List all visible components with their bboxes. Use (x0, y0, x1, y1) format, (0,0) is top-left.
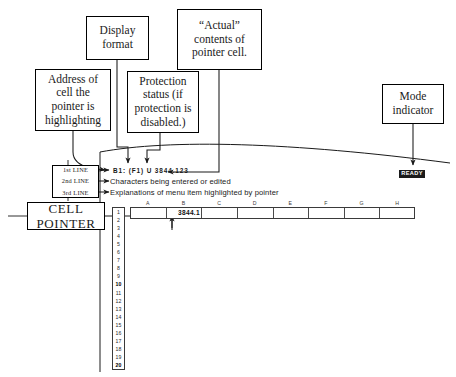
callout-actual-contents-line-1: “Actual” (190, 19, 249, 33)
callout-protection-line-3: protection is (132, 102, 193, 116)
callout-protection-line-2: status (if (132, 88, 193, 102)
row-header-cell-4[interactable]: 4 (113, 232, 124, 240)
row-header-cell-8[interactable]: 8 (113, 264, 124, 272)
callout-cell-pointer-line-2: POINTER (34, 216, 97, 231)
row-header-cell-12[interactable]: 12 (113, 297, 124, 305)
row-header-cell-16[interactable]: 16 (113, 329, 124, 337)
column-letter-G: G (344, 200, 380, 206)
row-header-cell-20[interactable]: 20 (113, 361, 124, 369)
column-header-row (130, 207, 415, 219)
row-header-cell-11[interactable]: 11 (113, 289, 124, 297)
column-letter-H: H (379, 200, 415, 206)
row-header-cell-1[interactable]: 1 (113, 208, 124, 216)
column-header-cell-G[interactable] (345, 208, 381, 218)
row-header-cell-2[interactable]: 2 (113, 216, 124, 224)
row-header-cell-15[interactable]: 15 (113, 321, 124, 329)
callout-protection-line-1: Protection (132, 75, 193, 89)
callout-mode-line-2: indicator (391, 104, 436, 118)
column-letter-B: B (166, 200, 202, 206)
mode-indicator-badge: READY (399, 170, 425, 178)
callout-display-format: Display format (86, 16, 149, 60)
control-panel-line-3: Explanations of menu item highlighted by… (110, 188, 279, 197)
row-header-cell-13[interactable]: 13 (113, 305, 124, 313)
callout-actual-contents-line-2: contents of (190, 33, 249, 47)
column-header-cell-F[interactable] (309, 208, 345, 218)
sheet-body: 3844.1 (130, 219, 415, 370)
panel-to-mode-curve (100, 144, 450, 163)
control-panel-line-1: B1: (F1) U 3844.123 (113, 167, 189, 174)
label-3rd-line: 3rd LINE (53, 190, 98, 196)
row-header-cell-18[interactable]: 18 (113, 345, 124, 353)
row-header-cell-17[interactable]: 17 (113, 337, 124, 345)
row-header-cell-9[interactable]: 9 (113, 272, 124, 280)
row-header-cell-6[interactable]: 6 (113, 248, 124, 256)
control-panel-line-2: Characters being entered or edited (110, 177, 231, 186)
row-header-cell-19[interactable]: 19 (113, 353, 124, 361)
callout-display-format-line-1: Display (98, 24, 138, 38)
callout-cell-address-line-4: highlighting (43, 114, 103, 128)
column-letter-E: E (273, 200, 309, 206)
callout-mode-indicator: Mode indicator (382, 84, 444, 124)
row-header-cell-10[interactable]: 10 (113, 280, 124, 288)
callout-actual-contents-line-3: pointer cell. (190, 46, 249, 60)
callout-mode-line-1: Mode (391, 90, 436, 104)
callout-actual-contents: “Actual” contents of pointer cell. (177, 9, 262, 70)
callout-cell-pointer-line-1: CELL (34, 201, 97, 216)
callout-cell-address: Address of cell the pointer is highlight… (35, 69, 111, 131)
callout-protection-status: Protection status (if protection is disa… (127, 71, 199, 133)
row-header-cell-14[interactable]: 14 (113, 313, 124, 321)
row-header-cell-7[interactable]: 7 (113, 256, 124, 264)
figure-canvas: Display format “Actual” contents of poin… (0, 0, 456, 377)
column-header-cell-E[interactable] (274, 208, 310, 218)
callout-cell-pointer: CELL POINTER (27, 202, 105, 230)
column-header-cell-H[interactable] (380, 208, 416, 218)
label-1st-line: 1st LINE (53, 167, 98, 173)
callout-cell-address-line-3: pointer is (43, 100, 103, 114)
cell-B1-value: 3844.1 (178, 209, 200, 216)
column-letter-D: D (237, 200, 273, 206)
column-letter-C: C (201, 200, 237, 206)
row-header-cell-5[interactable]: 5 (113, 240, 124, 248)
callout-protection-line-4: disabled.) (132, 116, 193, 130)
spreadsheet-grid: ABCDEFGH 1234567891011121314151617181920… (112, 207, 415, 370)
leader-protection (147, 133, 160, 163)
label-2nd-line: 2nd LINE (53, 178, 98, 184)
row-header-cell-3[interactable]: 3 (113, 224, 124, 232)
callout-cell-address-line-2: cell the (43, 86, 103, 100)
column-letter-F: F (308, 200, 344, 206)
column-header-cell-A[interactable] (131, 208, 167, 218)
column-header-cell-D[interactable] (238, 208, 274, 218)
callout-display-format-line-2: format (98, 38, 138, 52)
column-letter-A: A (130, 200, 166, 206)
row-header-column: 1234567891011121314151617181920 (112, 207, 125, 370)
callout-cell-address-line-1: Address of (43, 73, 103, 87)
column-header-cell-C[interactable] (202, 208, 238, 218)
control-panel-line-labels: 1st LINE 2nd LINE 3rd LINE (52, 165, 99, 198)
